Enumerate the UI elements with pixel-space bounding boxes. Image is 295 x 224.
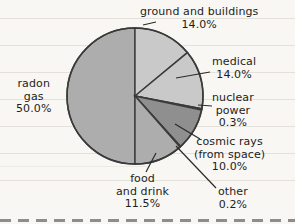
label-line-1: cosmic rays bbox=[194, 136, 265, 149]
pie-label-food-and-drink: food and drink 11.5% bbox=[116, 173, 169, 211]
label-line-2: 14.0% bbox=[140, 19, 258, 32]
pie-label-nuclear-power: nuclear power 0.3% bbox=[212, 92, 254, 130]
pie-label-ground-and-buildings: ground and buildings 14.0% bbox=[140, 6, 258, 31]
label-line-1: other bbox=[218, 186, 248, 199]
label-line-1: ground and buildings bbox=[140, 6, 258, 19]
pie-label-radon-gas: radon gas 50.0% bbox=[16, 78, 51, 116]
label-line-1: nuclear bbox=[212, 92, 254, 105]
label-line-2: 14.0% bbox=[212, 69, 256, 82]
pie-label-cosmic-rays: cosmic rays (from space) 10.0% bbox=[194, 136, 265, 174]
label-line-3: 11.5% bbox=[116, 198, 169, 211]
label-line-1: food bbox=[116, 173, 169, 186]
pie-slice-radon-gas[interactable] bbox=[67, 28, 135, 164]
label-line-3: 50.0% bbox=[16, 103, 51, 116]
label-line-2: 0.2% bbox=[218, 199, 248, 212]
pie-chart: ground and buildings 14.0% medical 14.0%… bbox=[0, 0, 295, 224]
pie-label-medical: medical 14.0% bbox=[212, 56, 256, 81]
label-line-3: 10.0% bbox=[194, 161, 265, 174]
pie-label-other: other 0.2% bbox=[218, 186, 248, 211]
label-line-1: radon bbox=[16, 78, 51, 91]
label-line-1: medical bbox=[212, 56, 256, 69]
label-line-3: 0.3% bbox=[212, 117, 254, 130]
